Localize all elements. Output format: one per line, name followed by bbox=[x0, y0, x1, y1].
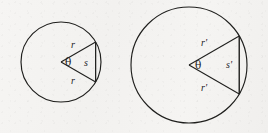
small-radius-lower-label: r bbox=[71, 76, 75, 86]
large-angle-theta-label: θ bbox=[195, 60, 201, 71]
small-circle-group bbox=[21, 22, 101, 102]
large-radius-upper-label: r' bbox=[201, 38, 207, 48]
figure-container: r r θ s r' r' θ s' bbox=[0, 0, 268, 133]
large-radius-lower-label: r' bbox=[201, 83, 207, 93]
small-radius-upper-label: r bbox=[71, 40, 75, 50]
large-arc-label: s' bbox=[226, 60, 232, 70]
small-angle-theta-label: θ bbox=[65, 57, 71, 68]
small-arc-label: s bbox=[84, 58, 88, 68]
